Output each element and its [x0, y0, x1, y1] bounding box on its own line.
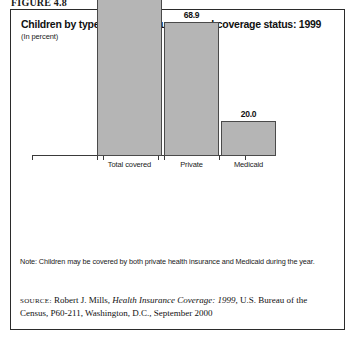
- bar-group: 68.9: [164, 11, 219, 156]
- bar-chart-plot: 86.1 Total covered 68.9 Private 20.0 Med…: [11, 10, 346, 250]
- figure-panel: Children by type of health insurance and…: [10, 9, 345, 330]
- bar-value-label: 20.0: [221, 109, 276, 119]
- chart-source: SOURCE: Robert J. Mills, Health Insuranc…: [20, 295, 336, 319]
- figure-number-label: FIGURE 4.8: [11, 0, 67, 8]
- source-work-title: Health Insurance Coverage: 1999: [112, 295, 235, 305]
- source-author: Robert J. Mills,: [54, 295, 110, 305]
- bar-medicaid[interactable]: [221, 121, 276, 156]
- bar-group: 86.1: [97, 0, 162, 156]
- source-prefix: SOURCE: [20, 297, 49, 305]
- axis-tick: [32, 156, 33, 160]
- source-colon: :: [49, 297, 51, 305]
- bar-group: 20.0: [221, 110, 276, 156]
- bar-total-covered[interactable]: [97, 0, 162, 156]
- axis-tick: [219, 156, 220, 160]
- category-label-total-covered: Total covered: [97, 160, 162, 169]
- category-label-private: Private: [164, 160, 219, 169]
- bar-private[interactable]: [164, 22, 219, 156]
- bar-value-label: 68.9: [164, 10, 219, 20]
- chart-note: Note: Children may be covered by both pr…: [20, 257, 334, 268]
- category-label-medicaid: Medicaid: [221, 160, 276, 169]
